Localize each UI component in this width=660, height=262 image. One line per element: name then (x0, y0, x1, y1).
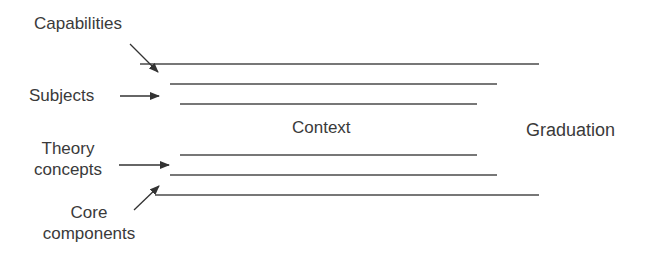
capabilities-label: Capabilities (34, 13, 122, 34)
core-components-label-line1: Core (30, 202, 148, 223)
theory-concepts-label-line2: concepts (24, 159, 112, 180)
context-label: Context (292, 117, 351, 138)
theory-concepts-label-line1: Theory (24, 138, 112, 159)
theory-concepts-label: Theory concepts (24, 138, 112, 180)
core-components-label-line2: components (30, 223, 148, 244)
graduation-label: Graduation (526, 120, 615, 141)
capabilities-arrow-icon (130, 44, 158, 72)
subjects-label: Subjects (29, 85, 94, 106)
core-components-label: Core components (30, 202, 148, 244)
